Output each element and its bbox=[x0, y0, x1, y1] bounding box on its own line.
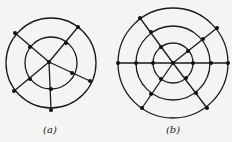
vertex-node bbox=[49, 108, 53, 112]
vertex-node bbox=[151, 61, 155, 65]
vertex-node bbox=[49, 87, 53, 91]
vertex-node bbox=[116, 61, 120, 65]
vertex-node bbox=[88, 79, 92, 83]
edge bbox=[49, 62, 51, 110]
edge bbox=[140, 18, 173, 63]
vertex-node bbox=[13, 31, 17, 35]
figure-a-caption: (a) bbox=[43, 124, 57, 135]
vertex-node bbox=[209, 61, 213, 65]
vertex-node bbox=[140, 106, 144, 110]
figure-b-graph bbox=[116, 8, 230, 118]
vertex-node bbox=[171, 61, 175, 65]
vertex-node bbox=[70, 71, 74, 75]
vertex-node bbox=[149, 30, 153, 34]
vertex-node bbox=[47, 60, 51, 64]
diagram-canvas bbox=[0, 0, 232, 142]
vertex-node bbox=[138, 16, 142, 20]
edge bbox=[49, 62, 90, 81]
vertex-node bbox=[76, 25, 80, 29]
vertex-node bbox=[194, 91, 198, 95]
vertex-node bbox=[159, 77, 163, 81]
vertex-node bbox=[28, 45, 32, 49]
vertex-node bbox=[149, 92, 153, 96]
figure-b-caption: (b) bbox=[166, 124, 180, 135]
vertex-node bbox=[191, 61, 195, 65]
figure-a-graph bbox=[6, 18, 96, 112]
vertex-node bbox=[186, 49, 190, 53]
vertex-node bbox=[134, 61, 138, 65]
vertex-node bbox=[205, 106, 209, 110]
vertex-node bbox=[64, 41, 68, 45]
vertex-node bbox=[215, 26, 219, 30]
edge bbox=[142, 63, 173, 108]
vertex-node bbox=[159, 45, 163, 49]
vertex-node bbox=[201, 37, 205, 41]
edge bbox=[49, 27, 78, 62]
edge bbox=[14, 62, 49, 91]
vertex-node bbox=[184, 76, 188, 80]
vertex-node bbox=[226, 61, 230, 65]
vertex-node bbox=[12, 89, 16, 93]
vertex-node bbox=[28, 77, 32, 81]
